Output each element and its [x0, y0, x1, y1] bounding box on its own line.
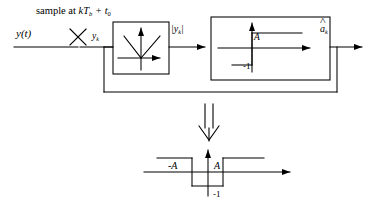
output-signal-label: ak	[320, 24, 328, 35]
sampled-signal-label: yk	[92, 32, 99, 43]
diagram-canvas	[0, 0, 370, 215]
sample-annotation: sample at kTb + t0	[36, 6, 111, 17]
input-signal-label: y(t)	[16, 28, 31, 39]
combined-minus-one-label: -1	[213, 190, 221, 199]
sampler-switch-icon	[70, 29, 86, 45]
combined-negative-threshold-label: -A	[168, 161, 177, 171]
combined-positive-threshold-label: A	[214, 161, 220, 171]
rectified-signal-label: |yk|	[171, 24, 184, 35]
block-diagram: sample at kTb + t0 y(t) yk |yk| ak A -1 …	[0, 0, 370, 215]
double-down-arrow-icon	[199, 104, 219, 141]
threshold-block-A-label: A	[254, 33, 260, 43]
threshold-block-minus-one-label: -1	[243, 62, 251, 71]
